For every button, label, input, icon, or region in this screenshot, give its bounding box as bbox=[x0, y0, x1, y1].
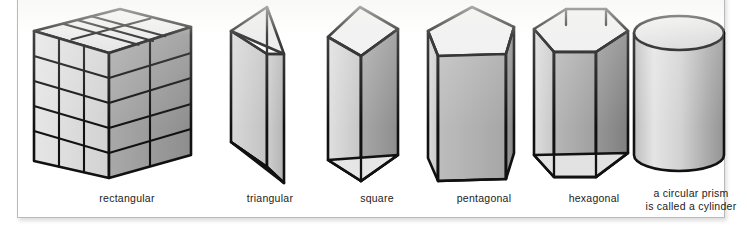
shape-cell-cylinder: a circular prism is called a cylinder bbox=[618, 0, 747, 219]
prisms-figure: rectangular bbox=[0, 0, 747, 234]
rectangular-prism-icon bbox=[22, 0, 232, 195]
cylinder-icon bbox=[618, 0, 747, 195]
shape-label-cylinder: a circular prism is called a cylinder bbox=[618, 187, 747, 213]
shape-label-rectangular: rectangular bbox=[22, 192, 232, 205]
shape-cell-rectangular: rectangular bbox=[22, 0, 232, 219]
figure-panel: rectangular bbox=[17, 0, 725, 218]
